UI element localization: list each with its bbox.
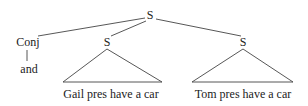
left-triangle-right-edge [107, 49, 162, 82]
root-node-label: S [147, 8, 154, 22]
left-clause: Gail pres have a car [63, 87, 158, 101]
left-s-node-label: S [104, 35, 111, 49]
left-triangle-left-edge [63, 49, 107, 82]
right-triangle-left-edge [192, 49, 243, 82]
edge-root-conj [38, 18, 145, 36]
right-triangle-right-edge [243, 49, 293, 82]
right-s-node-label: S [240, 35, 247, 49]
right-clause: Tom pres have a car [195, 87, 291, 101]
syntax-tree: S Conj and S Gail pres have a car S Tom … [0, 0, 308, 106]
edge-root-right-s [156, 19, 241, 36]
conj-node-label: Conj [16, 35, 39, 49]
conj-word: and [20, 62, 37, 76]
